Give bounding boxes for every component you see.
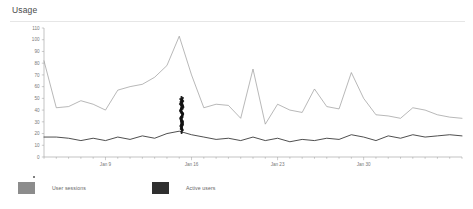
title-divider	[10, 21, 465, 22]
y-axis-tick-label: 50	[34, 96, 40, 101]
legend-swatch-icon	[18, 182, 35, 194]
y-axis-tick-label: 90	[34, 49, 40, 54]
usage-line-chart: 0102030405060708090100110 Jan 9Jan 16Jan…	[0, 24, 473, 172]
x-axis: Jan 9Jan 16Jan 23Jan 30	[44, 157, 462, 167]
y-axis-tick-label: 110	[32, 26, 40, 31]
y-axis-tick-label: 40	[34, 108, 40, 113]
legend-item-label: Active users	[186, 185, 215, 191]
origin-marker-dot	[33, 176, 35, 178]
y-axis-tick-label: 100	[32, 37, 40, 42]
x-axis-tick-label: Jan 9	[100, 162, 112, 167]
y-axis-tick-label: 20	[34, 131, 40, 136]
series-line-active-users	[44, 131, 462, 142]
legend-item-active-users[interactable]: Active users	[152, 180, 215, 196]
usage-chart-card: Usage 0102030405060708090100110 Jan 9Jan…	[0, 0, 473, 209]
y-axis-tick-label: 10	[34, 143, 40, 148]
legend-item-label: User sessions	[52, 185, 86, 191]
chart-legend: User sessions Active users	[0, 180, 473, 202]
y-axis-tick-label: 0	[37, 155, 40, 160]
chart-plot-area: 0102030405060708090100110 Jan 9Jan 16Jan…	[0, 24, 473, 172]
series-line-user-sessions	[44, 36, 462, 124]
legend-item-user-sessions[interactable]: User sessions	[18, 180, 86, 196]
y-axis: 0102030405060708090100110	[32, 26, 44, 160]
y-axis-tick-label: 60	[34, 84, 40, 89]
y-axis-tick-label: 70	[34, 73, 40, 78]
y-axis-tick-label: 80	[34, 61, 40, 66]
x-axis-tick-label: Jan 23	[271, 162, 285, 167]
y-axis-tick-label: 30	[34, 120, 40, 125]
x-axis-tick-label: Jan 30	[357, 162, 371, 167]
legend-swatch-icon	[152, 182, 169, 194]
x-axis-tick-label: Jan 16	[185, 162, 199, 167]
page-title: Usage	[12, 5, 37, 15]
chart-series-group	[44, 36, 462, 142]
